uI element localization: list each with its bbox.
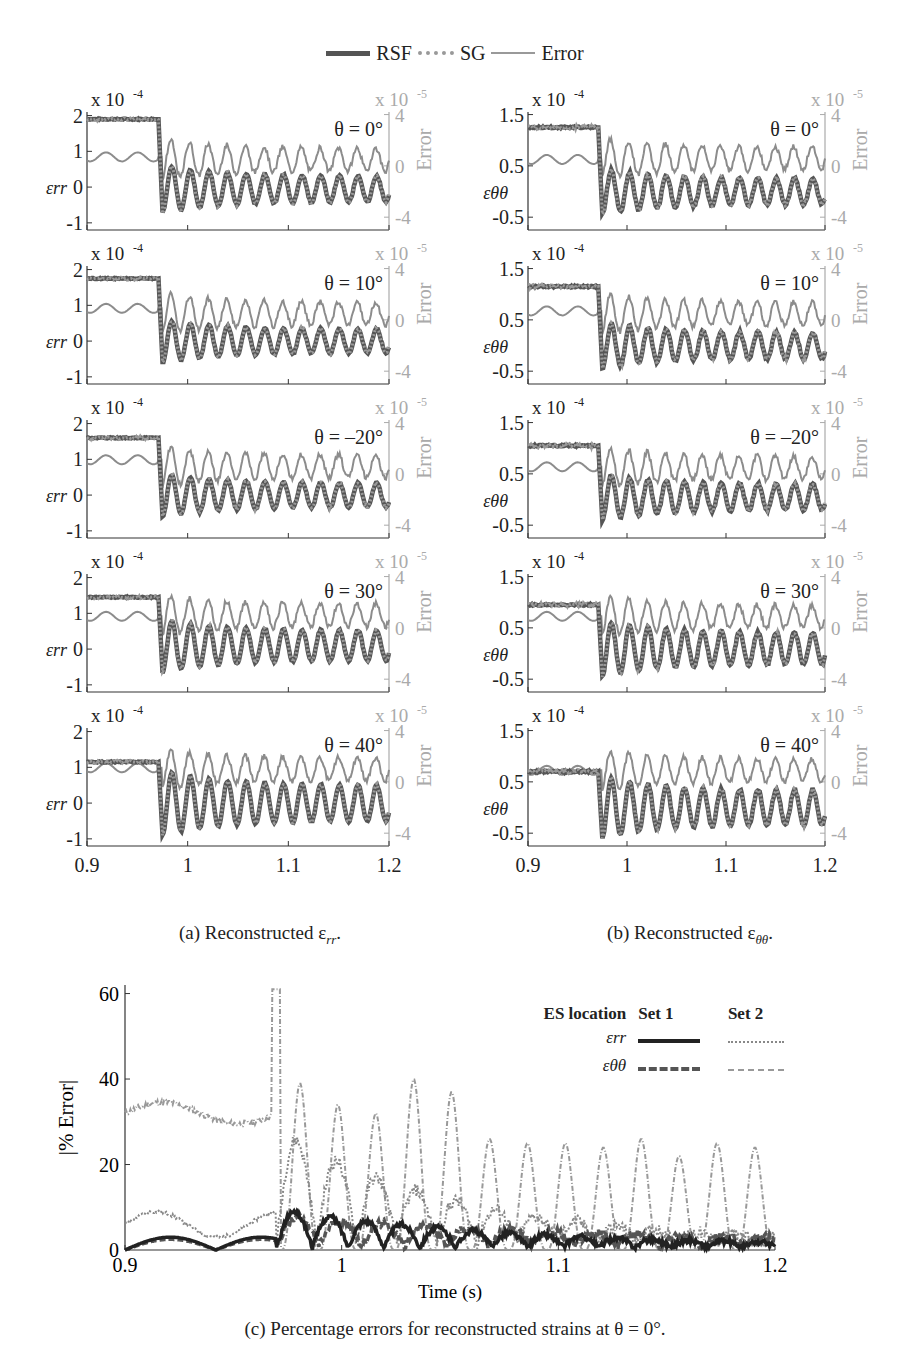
svg-text:Error: Error [849,128,871,171]
svg-text:-5: -5 [853,703,863,717]
svg-text:θ = 30°: θ = 30° [760,580,819,602]
set1-rr-swatch [638,1039,700,1043]
strain-panel: -1012-404x 10-4x 10-5Errorεrrθ = 10° [46,241,435,388]
figure-canvas: -1012-404x 10-4x 10-5Errorεrrθ = 0°-1012… [0,0,910,1365]
svg-text:θ = –20°: θ = –20° [314,426,383,448]
svg-text:-4: -4 [574,703,584,717]
svg-text:-4: -4 [831,361,847,382]
svg-text:1: 1 [73,756,83,778]
svg-text:εrr: εrr [46,332,68,352]
svg-text:-4: -4 [574,87,584,101]
svg-text:1: 1 [73,602,83,624]
svg-text:x 10: x 10 [375,397,408,418]
svg-text:0: 0 [395,772,405,793]
svg-text:-5: -5 [417,549,427,563]
svg-text:εrr: εrr [46,640,68,660]
svg-text:1: 1 [622,854,632,876]
svg-text:-4: -4 [395,669,411,690]
svg-text:1.2: 1.2 [377,854,402,876]
svg-text:-4: -4 [395,361,411,382]
svg-text:Error: Error [849,744,871,787]
svg-text:-4: -4 [133,395,143,409]
svg-text:1: 1 [337,1254,347,1276]
svg-text:1.5: 1.5 [499,566,524,588]
svg-text:-0.5: -0.5 [492,822,524,844]
svg-text:Error: Error [413,590,435,633]
svg-text:x 10: x 10 [375,705,408,726]
svg-text:2: 2 [73,721,83,743]
svg-text:Error: Error [413,436,435,479]
svg-text:0: 0 [831,156,841,177]
strain-panel: -1012-404x 10-4x 10-5Errorεrrθ = 0° [46,87,435,234]
svg-text:εθθ: εθθ [483,337,508,357]
svg-text:-1: -1 [66,520,83,542]
svg-text:1.1: 1.1 [714,854,739,876]
caption-c: (c) Percentage errors for reconstructed … [0,1318,910,1340]
svg-text:Error: Error [413,282,435,325]
strain-panel: -0.50.51.5-404x 10-4x 10-5Errorεθθθ = 10… [483,241,871,384]
svg-text:-5: -5 [417,87,427,101]
error-series [87,292,389,332]
svg-text:-1: -1 [66,212,83,234]
svg-text:εθθ: εθθ [483,491,508,511]
svg-text:1: 1 [73,448,83,470]
legend-header: ES location Set 1 Set 2 [494,1004,794,1024]
svg-text:0: 0 [395,310,405,331]
svg-text:0.5: 0.5 [499,463,524,485]
legend-row-err-tt: εθθ [494,1052,794,1080]
svg-text:-5: -5 [853,549,863,563]
svg-text:0: 0 [831,310,841,331]
svg-text:-5: -5 [417,241,427,255]
svg-text:0.5: 0.5 [499,309,524,331]
svg-text:εrr: εrr [46,794,68,814]
svg-text:θ = 10°: θ = 10° [324,272,383,294]
svg-text:θ = 40°: θ = 40° [324,734,383,756]
svg-text:-1: -1 [66,828,83,850]
svg-text:2: 2 [73,105,83,127]
set2-rr-swatch [728,1041,784,1043]
strain-panel: -1012-404x 10-4x 10-5Errorεrrθ = –20° [46,395,435,542]
svg-text:Error: Error [849,282,871,325]
svg-text:Error: Error [849,436,871,479]
svg-text:x 10: x 10 [811,397,844,418]
svg-text:x 10: x 10 [375,89,408,110]
legend-row-err-rr: εrr [494,1024,794,1052]
error-series [87,139,389,180]
svg-text:-4: -4 [133,703,143,717]
svg-text:-4: -4 [133,549,143,563]
svg-text:-4: -4 [831,823,847,844]
svg-text:1.1: 1.1 [546,1254,571,1276]
svg-text:-4: -4 [395,207,411,228]
svg-text:x 10: x 10 [375,551,408,572]
svg-text:Error: Error [849,590,871,633]
svg-text:x 10: x 10 [532,397,565,418]
error-legend: ES location Set 1 Set 2 εrr εθθ [494,1004,794,1080]
strain-panel: -1012-404x 10-4x 10-5Errorεrrθ = 30° [46,549,435,696]
svg-text:θ = 30°: θ = 30° [324,580,383,602]
svg-text:θ = –20°: θ = –20° [750,426,819,448]
svg-text:0: 0 [395,618,405,639]
svg-text:|% Error|: |% Error| [54,1080,78,1155]
svg-text:1: 1 [73,140,83,162]
svg-text:-5: -5 [417,395,427,409]
svg-text:x 10: x 10 [532,551,565,572]
svg-text:-5: -5 [417,703,427,717]
set1-tt-swatch [638,1067,700,1071]
svg-text:0: 0 [73,792,83,814]
svg-text:Time (s): Time (s) [418,1281,482,1303]
svg-text:x 10: x 10 [91,551,124,572]
svg-text:x 10: x 10 [811,705,844,726]
svg-text:0.5: 0.5 [499,617,524,639]
caption-b: (b) Reconstructed εθθ. [490,922,890,948]
svg-text:-4: -4 [831,207,847,228]
svg-text:θ = 0°: θ = 0° [334,118,383,140]
svg-text:1.5: 1.5 [499,258,524,280]
svg-text:-5: -5 [853,87,863,101]
svg-text:0: 0 [73,484,83,506]
svg-text:-4: -4 [133,241,143,255]
caption-a: (a) Reconstructed εrr. [60,922,460,948]
strain-panel: -0.50.51.5-404x 10-4x 10-5Errorεθθθ = 40… [483,703,871,876]
svg-text:0.5: 0.5 [499,771,524,793]
svg-text:εrr: εrr [46,178,68,198]
svg-text:x 10: x 10 [811,243,844,264]
